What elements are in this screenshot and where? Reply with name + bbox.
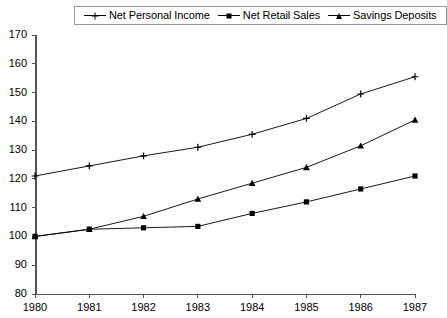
data-point-plus bbox=[140, 152, 147, 159]
data-point-plus bbox=[86, 163, 93, 170]
data-point-square bbox=[141, 225, 146, 230]
data-point-square bbox=[358, 186, 363, 191]
series-line bbox=[35, 77, 415, 176]
data-point-square bbox=[412, 173, 417, 178]
data-point-triangle bbox=[303, 164, 310, 170]
data-point-plus bbox=[249, 131, 256, 138]
data-point-square bbox=[304, 199, 309, 204]
series-savings-deposits bbox=[32, 116, 419, 239]
data-point-triangle bbox=[412, 116, 419, 122]
data-point-plus bbox=[357, 91, 364, 98]
data-point-square bbox=[195, 224, 200, 229]
series-line bbox=[35, 176, 415, 236]
data-point-triangle bbox=[357, 142, 364, 148]
data-point-plus bbox=[32, 173, 39, 180]
data-point-plus bbox=[194, 144, 201, 151]
series-line bbox=[35, 120, 415, 237]
data-point-plus bbox=[412, 73, 419, 80]
data-point-plus bbox=[303, 115, 310, 122]
data-point-square bbox=[250, 211, 255, 216]
series-net-personal-income bbox=[32, 73, 419, 179]
